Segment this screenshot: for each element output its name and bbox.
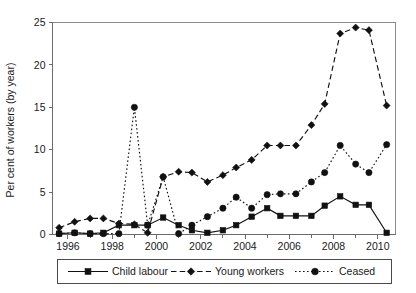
data-point-marker — [219, 172, 226, 179]
data-point-marker — [204, 214, 210, 220]
data-point-marker — [233, 164, 240, 171]
data-point-marker — [145, 222, 151, 228]
data-point-marker — [352, 24, 359, 31]
legend-label: Young workers — [215, 265, 284, 277]
series-ceased — [56, 104, 390, 237]
x-tick-label: 2002 — [189, 240, 213, 252]
series-line — [59, 107, 387, 233]
data-point-marker — [278, 213, 283, 218]
plot-frame — [53, 23, 396, 235]
data-point-marker — [100, 231, 106, 237]
data-point-marker — [116, 231, 122, 237]
data-point-marker — [175, 168, 182, 175]
x-tick-label: 2010 — [366, 240, 390, 252]
data-point-marker — [204, 178, 211, 185]
data-point-marker — [249, 214, 254, 219]
data-point-marker — [384, 230, 389, 235]
x-tick-label: 2008 — [322, 240, 346, 252]
data-point-marker — [205, 230, 210, 235]
x-tick-label: 2000 — [145, 240, 169, 252]
data-point-marker — [249, 205, 255, 211]
data-point-marker — [220, 205, 226, 211]
y-axis-ticks: 0510152025 — [34, 16, 53, 240]
data-point-marker — [189, 222, 195, 228]
x-tick-label: 2004 — [233, 240, 257, 252]
data-point-marker — [264, 205, 269, 210]
data-point-marker — [384, 141, 390, 147]
data-point-marker — [188, 169, 195, 176]
x-tick-label: 2006 — [278, 240, 302, 252]
data-point-marker — [160, 174, 166, 180]
data-point-marker — [220, 228, 225, 233]
y-tick-label: 25 — [34, 16, 46, 28]
data-point-marker — [277, 191, 283, 197]
y-tick-label: 10 — [34, 143, 46, 155]
data-point-marker — [293, 213, 298, 218]
data-point-marker — [233, 194, 239, 200]
data-point-marker — [277, 142, 284, 149]
data-point-marker — [308, 179, 314, 185]
data-point-marker — [366, 169, 372, 175]
data-point-marker — [322, 169, 328, 175]
data-point-marker — [312, 268, 319, 275]
data-point-marker — [87, 215, 94, 222]
legend-label: Ceased — [339, 265, 375, 277]
x-axis-ticks: 19961998200020022004200620082010 — [56, 235, 389, 252]
x-tick-label: 1996 — [56, 240, 80, 252]
data-point-marker — [248, 156, 255, 163]
data-point-marker — [264, 192, 270, 198]
chart-legend: Child labourYoung workersCeased — [58, 260, 392, 284]
series-child-labour — [56, 194, 389, 237]
data-point-marker — [85, 269, 91, 275]
x-tick-label: 1998 — [101, 240, 125, 252]
legend-label: Child labour — [112, 265, 169, 277]
data-point-marker — [321, 100, 328, 107]
series-line — [59, 28, 387, 233]
series-young-workers — [56, 24, 391, 236]
data-point-marker — [144, 229, 151, 236]
y-axis-title: Per cent of workers (by year) — [4, 63, 16, 198]
data-point-marker — [337, 194, 342, 199]
data-point-marker — [160, 215, 165, 220]
data-point-marker — [71, 218, 78, 225]
y-tick-label: 20 — [34, 59, 46, 71]
data-point-marker — [337, 142, 343, 148]
data-point-marker — [56, 224, 63, 231]
data-point-marker — [131, 104, 137, 110]
data-point-marker — [100, 215, 107, 222]
series-layer — [56, 24, 391, 237]
y-tick-label: 15 — [34, 101, 46, 113]
y-tick-label: 5 — [40, 186, 46, 198]
data-point-marker — [72, 230, 78, 236]
data-point-marker — [337, 30, 344, 37]
data-point-marker — [176, 231, 182, 237]
data-point-marker — [56, 231, 62, 237]
data-point-marker — [308, 122, 315, 129]
data-point-marker — [353, 161, 359, 167]
y-tick-label: 0 — [40, 228, 46, 240]
chart-container: 0510152025 19961998200020022004200620082… — [0, 0, 416, 293]
line-chart: 0510152025 19961998200020022004200620082… — [0, 0, 416, 293]
data-point-marker — [293, 191, 299, 197]
data-point-marker — [365, 27, 372, 34]
data-point-marker — [383, 102, 390, 109]
data-point-marker — [87, 231, 93, 237]
data-point-marker — [353, 202, 358, 207]
data-point-marker — [366, 202, 371, 207]
data-point-marker — [292, 142, 299, 149]
data-point-marker — [309, 213, 314, 218]
data-point-marker — [322, 203, 327, 208]
data-point-marker — [233, 222, 238, 227]
